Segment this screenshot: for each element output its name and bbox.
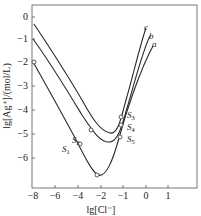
point-s1-label: S1 xyxy=(62,144,70,155)
x-tick-label: −6 xyxy=(50,190,61,201)
point-s3-label: S3 xyxy=(127,110,135,121)
x-axis: −8 −6 −4 −2 −1 0 1 xyxy=(28,185,171,201)
y-tick-label: −1 xyxy=(17,33,28,44)
y-tick-label: 0 xyxy=(23,11,28,22)
point-s4-marker xyxy=(119,123,123,127)
y-tick-label: −6 xyxy=(17,152,28,163)
plot-frame xyxy=(32,5,197,188)
point-s5-label: S5 xyxy=(127,134,135,145)
y-axis-title: lg[Ag⁺]/(mol/L) xyxy=(1,63,13,129)
x-axis-title: lg[Cl⁻] xyxy=(87,204,116,215)
x-tick-label: −4 xyxy=(73,190,84,201)
x-tick-label: 0 xyxy=(144,190,149,201)
curve-label-a: a xyxy=(152,39,157,49)
point-s2-label: S2 xyxy=(72,135,80,146)
y-tick-label: −2 xyxy=(17,56,28,67)
x-tick-label: −1 xyxy=(118,190,129,201)
y-tick-label: −4 xyxy=(17,104,28,115)
chart: 0 −1 −2 −3 −4 −5 −6 −8 −6 −4 −2 −1 0 1 l… xyxy=(0,0,201,216)
curve-label-c: c xyxy=(144,22,148,32)
x-tick-label: −8 xyxy=(28,190,39,201)
x-tick-label: 1 xyxy=(166,190,171,201)
point-min-marker xyxy=(95,173,99,177)
x-tick-label: −2 xyxy=(96,190,107,201)
point-s3-marker xyxy=(119,115,123,119)
point-start-marker xyxy=(32,60,36,64)
y-tick-label: −5 xyxy=(17,128,28,139)
point-s5-marker xyxy=(118,135,122,139)
point-s2-marker xyxy=(89,128,93,132)
y-tick-label: −3 xyxy=(17,80,28,91)
point-s4-label: S4 xyxy=(127,122,136,133)
